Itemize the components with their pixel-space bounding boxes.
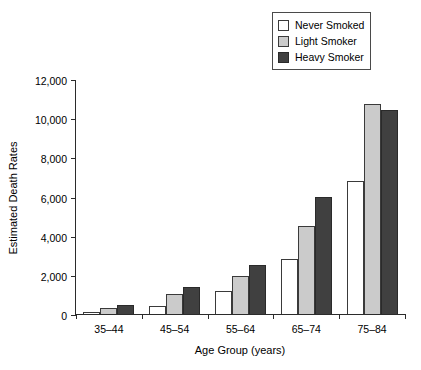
bar-groups: 35–4445–5455–6465–7475–84	[76, 80, 405, 314]
plot-area: 02,0004,0006,0008,00010,00012,000 35–444…	[75, 80, 405, 315]
legend-item-never-smoked: Never Smoked	[278, 17, 364, 33]
bar-never	[149, 306, 166, 314]
y-axis-tick-label: 8,000	[41, 153, 67, 165]
y-axis-tick-label: 12,000	[35, 75, 67, 87]
bar-never	[347, 181, 364, 314]
y-axis-tick-label: 0	[61, 310, 67, 322]
x-axis-tick	[405, 314, 406, 319]
x-axis-tick	[142, 314, 143, 319]
bar-group: 35–44	[76, 80, 142, 314]
x-axis-category-label: 35–44	[94, 323, 123, 335]
x-axis-tick	[76, 314, 77, 319]
x-axis-tick	[273, 314, 274, 319]
y-axis-tick-label: 10,000	[35, 114, 67, 126]
x-axis-title: Age Group (years)	[75, 344, 405, 356]
y-axis-tick-label: 6,000	[41, 193, 67, 205]
bar-never	[215, 291, 232, 315]
x-axis-category-label: 75–84	[357, 323, 386, 335]
legend-label-never-smoked: Never Smoked	[295, 20, 364, 31]
y-axis-title: Estimated Death Rates	[6, 80, 20, 315]
x-axis-category-label: 45–54	[160, 323, 189, 335]
y-axis-title-text: Estimated Death Rates	[7, 141, 19, 254]
bar-heavy	[117, 305, 134, 314]
bar-light	[166, 294, 183, 314]
bar-group: 45–54	[142, 80, 208, 314]
legend-item-light-smoker: Light Smoker	[278, 33, 364, 49]
bar-light	[364, 104, 381, 314]
legend-swatch-never-smoked	[278, 20, 289, 31]
bar-never	[281, 259, 298, 314]
bar-group: 65–74	[273, 80, 339, 314]
bar-heavy	[381, 110, 398, 314]
y-axis-tick-label: 2,000	[41, 271, 67, 283]
bar-group: 75–84	[339, 80, 405, 314]
x-axis-category-label: 55–64	[226, 323, 255, 335]
legend: Never Smoked Light Smoker Heavy Smoker	[272, 12, 371, 70]
bar-heavy	[315, 197, 332, 315]
x-axis-tick	[339, 314, 340, 319]
legend-label-light-smoker: Light Smoker	[295, 36, 357, 47]
x-axis-category-label: 65–74	[292, 323, 321, 335]
legend-item-heavy-smoker: Heavy Smoker	[278, 49, 364, 65]
x-axis-tick	[208, 314, 209, 319]
bar-light	[298, 226, 315, 314]
bar-light	[100, 308, 117, 314]
legend-swatch-heavy-smoker	[278, 52, 289, 63]
legend-swatch-light-smoker	[278, 36, 289, 47]
bar-group: 55–64	[208, 80, 274, 314]
bar-heavy	[183, 287, 200, 314]
bar-heavy	[249, 265, 266, 314]
legend-label-heavy-smoker: Heavy Smoker	[295, 52, 364, 63]
bar-light	[232, 276, 249, 314]
bar-never	[83, 312, 100, 314]
y-axis-tick-label: 4,000	[41, 232, 67, 244]
